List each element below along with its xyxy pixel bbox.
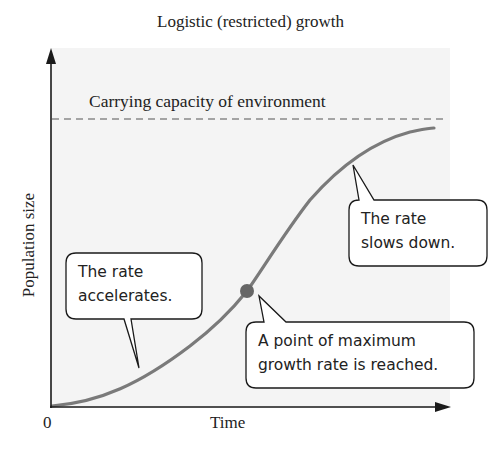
carrying-capacity-label: Carrying capacity of environment xyxy=(89,91,326,112)
callout-slows-line1: The rate xyxy=(361,207,455,231)
y-axis-label: Population size xyxy=(19,193,39,297)
callout-accelerates-line2: accelerates. xyxy=(78,284,172,308)
callout-max-growth-text: A point of maximum growth rate is reache… xyxy=(258,329,438,377)
x-axis-label: Time xyxy=(210,413,245,433)
callout-max-growth-line2: growth rate is reached. xyxy=(258,353,438,377)
callout-max-growth-line1: A point of maximum xyxy=(258,329,438,353)
origin-label: 0 xyxy=(43,413,52,433)
callout-accelerates-text: The rate accelerates. xyxy=(78,260,172,308)
max-growth-point xyxy=(240,284,254,298)
callout-accelerates-line1: The rate xyxy=(78,260,172,284)
callout-slows-line2: slows down. xyxy=(361,231,455,255)
callout-slows-text: The rate slows down. xyxy=(361,207,455,255)
